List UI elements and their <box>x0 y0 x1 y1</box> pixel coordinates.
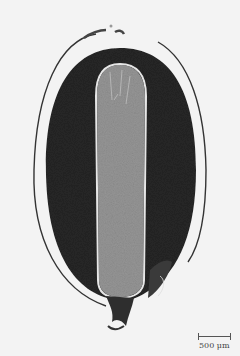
scale-bar-tick-left <box>198 333 199 340</box>
hilum <box>106 296 134 326</box>
seed-section-image <box>0 0 240 356</box>
scale-bar-label: 500 μm <box>199 341 230 350</box>
scale-bar-tick-right <box>230 333 231 340</box>
scale-bar-line <box>198 336 231 337</box>
inner-tissue <box>97 65 145 297</box>
